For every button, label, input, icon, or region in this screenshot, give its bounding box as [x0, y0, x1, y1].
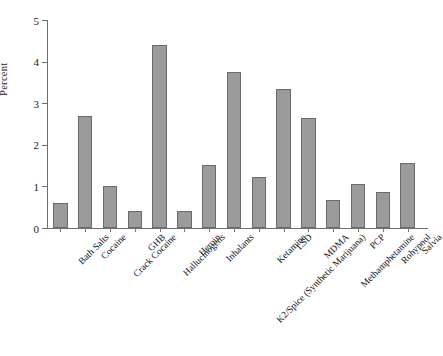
x-label-text: Inhalants [224, 232, 256, 264]
bar-heroin [177, 211, 191, 228]
bar-lsd [276, 89, 290, 228]
bar-mdma [301, 118, 315, 228]
bar-cocaine [78, 116, 92, 228]
bar-methamphetamine [326, 200, 340, 228]
x-label-text: PCP [368, 232, 387, 251]
bar-ketamine [252, 177, 266, 228]
bar-rohypnol [376, 192, 390, 228]
y-tick-label: 2 [34, 140, 40, 151]
y-tick-label: 3 [34, 98, 40, 109]
x-axis-category-labels: Bath SaltsCocaineCrack CocaineGHBHalluci… [0, 232, 436, 352]
bar-crack-cocaine [103, 186, 117, 228]
y-tick-0: 0 [42, 228, 48, 229]
bar-hallucinogens [152, 45, 166, 228]
bar-k2-spice-synthetic-marijuana [227, 72, 241, 228]
y-axis-title: Percent [0, 62, 9, 96]
x-axis-line [47, 228, 428, 229]
bar-ghb [128, 211, 142, 228]
bar-salvia [400, 163, 414, 228]
y-tick-label: 4 [34, 57, 40, 68]
y-tick-label: 1 [34, 181, 40, 192]
x-label-inhalants: Inhalants [224, 232, 256, 264]
bar-inhalants [202, 165, 216, 228]
y-tick-label: 5 [34, 15, 40, 26]
page-footer-artifact [232, 347, 432, 356]
bar-bath-salts [53, 203, 67, 228]
bar-series [48, 20, 420, 228]
bar-pcp [351, 184, 365, 229]
x-label-pcp: PCP [368, 232, 387, 251]
